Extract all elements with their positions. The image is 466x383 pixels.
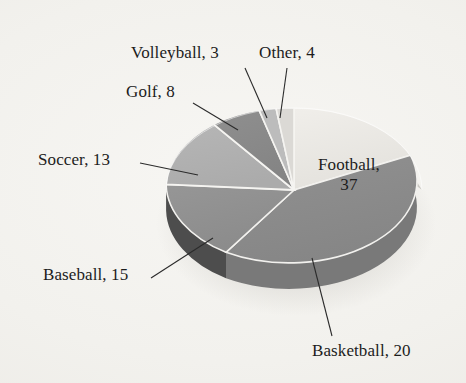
slice-label-football-line1: Football, <box>318 155 380 174</box>
slice-label-soccer: Soccer, 13 <box>38 150 110 169</box>
slice-label-football: Football, 37 <box>318 155 380 195</box>
slice-label-volleyball: Volleyball, 3 <box>131 43 219 62</box>
slice-label-football-line2: 37 <box>318 175 380 195</box>
pie-chart-figure: Volleyball, 3 Other, 4 Golf, 8 Soccer, 1… <box>0 0 466 383</box>
pie-chart-graphic <box>0 0 466 383</box>
slice-label-golf: Golf, 8 <box>126 82 175 101</box>
slice-label-basketball: Basketball, 20 <box>312 341 411 360</box>
slice-label-baseball: Baseball, 15 <box>43 265 128 284</box>
slice-label-other: Other, 4 <box>259 43 315 62</box>
